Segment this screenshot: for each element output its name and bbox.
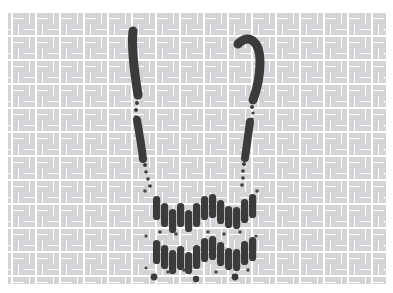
scatter-stitch-5 [222, 232, 226, 236]
lower-teeth-row-stitch-1 [161, 245, 168, 269]
upper-teeth-row-stitch-2 [169, 209, 176, 233]
lower-teeth-row-stitch-6 [201, 238, 208, 262]
scatter-stitch-2 [158, 230, 162, 234]
lower-teeth-row-stitch-12 [249, 237, 256, 261]
left-upper-dot-trail-dot-0 [135, 101, 139, 105]
scatter-stitch-9 [166, 270, 170, 274]
upper-teeth-row-stitch-7 [209, 194, 216, 218]
base-dot-left [151, 274, 158, 281]
right-upper-dot-trail-dot-0 [250, 105, 254, 109]
upper-teeth-row-stitch-1 [161, 203, 168, 227]
scatter-stitch-6 [238, 230, 242, 234]
lower-teeth-row-stitch-7 [209, 236, 216, 260]
lower-teeth-row-stitch-3 [177, 246, 184, 270]
right-lower-dot-trail-dot-0 [242, 162, 246, 166]
upper-teeth-row-stitch-4 [185, 210, 192, 232]
right-lower-dot-trail-dot-1 [241, 169, 245, 173]
upper-teeth-row-stitch-9 [225, 206, 232, 228]
scatter-stitch-3 [174, 232, 178, 236]
upper-teeth-row-stitch-0 [153, 196, 160, 220]
upper-teeth-row-stitch-11 [241, 199, 248, 223]
lower-teeth-row-stitch-11 [241, 241, 248, 265]
basket-weave-fabric [8, 12, 386, 284]
artwork-canvas [0, 0, 393, 293]
right-cheek-stroke [245, 122, 250, 158]
upper-teeth-row-stitch-10 [233, 207, 240, 229]
artwork-svg [0, 0, 393, 293]
left-upper-dot-trail-dot-1 [134, 108, 138, 112]
left-lower-dot-trail-dot-2 [146, 177, 150, 181]
lower-teeth-row-stitch-2 [169, 250, 176, 274]
upper-teeth-row-stitch-12 [249, 194, 256, 218]
right-lower-dot-trail-dot-2 [241, 176, 245, 180]
left-lower-dot-trail-dot-3 [148, 184, 152, 188]
scatter-stitch-0 [143, 189, 147, 193]
scatter-stitch-11 [214, 270, 218, 274]
upper-teeth-row-stitch-5 [193, 203, 200, 227]
right-lower-dot-trail-dot-3 [240, 183, 244, 187]
left-upper-dot-trail-dot-2 [134, 115, 138, 119]
lower-teeth-row-stitch-4 [185, 252, 192, 274]
left-lower-dot-trail-dot-0 [143, 163, 147, 167]
lower-teeth-row-stitch-8 [217, 242, 224, 266]
scatter-stitch-10 [182, 268, 186, 272]
right-upper-dot-trail-dot-2 [250, 117, 253, 120]
lower-teeth-row-stitch-5 [193, 245, 200, 269]
upper-teeth-row-stitch-3 [177, 203, 184, 227]
base-dot-right [232, 274, 239, 281]
scatter-stitch-8 [254, 234, 257, 237]
base-dot-center [193, 276, 199, 282]
lower-teeth-row-stitch-10 [233, 249, 240, 271]
lower-teeth-row-stitch-0 [153, 240, 160, 264]
scatter-stitch-7 [144, 234, 147, 237]
scatter-stitch-1 [255, 189, 259, 193]
scatter-stitch-13 [144, 266, 147, 269]
scatter-stitch-4 [206, 230, 210, 234]
upper-teeth-row-stitch-8 [217, 200, 224, 224]
lower-teeth-row-stitch-9 [225, 248, 232, 270]
scatter-stitch-12 [246, 268, 250, 272]
left-lower-dot-trail-dot-1 [144, 170, 148, 174]
upper-teeth-row-stitch-6 [201, 196, 208, 220]
right-upper-dot-trail-dot-1 [251, 111, 254, 114]
